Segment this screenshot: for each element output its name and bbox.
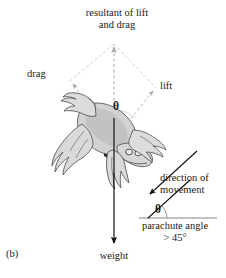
label-theta-parachute-angle: θ	[155, 203, 161, 216]
cropped-caption-text-sliver	[0, 268, 226, 278]
frog-illustration	[52, 93, 166, 189]
frog-hind-left-leg-webbed-foot	[52, 124, 93, 175]
label-drag: drag	[27, 68, 46, 80]
parallelogram-edge-apex-to-lift	[114, 44, 156, 88]
label-theta-main: θ	[113, 100, 119, 113]
label-lift: lift	[160, 80, 172, 92]
frog-front-left-limb-webbed	[61, 93, 96, 117]
force-parallelogram	[70, 44, 156, 88]
panel-label-b: (b)	[6, 248, 18, 260]
label-direction-of-movement: direction of movement	[160, 172, 226, 196]
label-weight: weight	[86, 250, 142, 262]
parallelogram-edge-drag-to-apex	[70, 44, 114, 81]
label-parachute-angle-value: parachute angle > 45°	[126, 220, 224, 244]
frog-eye-left	[126, 149, 133, 155]
parachute-angle-arc	[161, 205, 167, 218]
label-resultant-of-lift-and-drag: resultant of lift and drag	[61, 7, 173, 30]
